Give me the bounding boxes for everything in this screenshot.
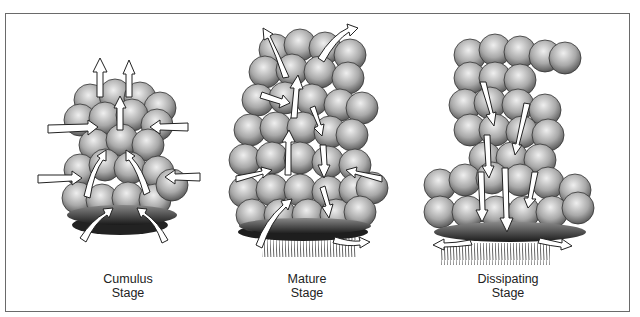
mature-cloud bbox=[229, 29, 388, 257]
dissipating-stage-label: Dissipating Stage bbox=[458, 272, 558, 300]
stage-label-line1: Cumulus bbox=[88, 272, 168, 286]
thunderstorm-stages-illustration bbox=[0, 0, 640, 317]
dissipating-cloud bbox=[424, 34, 594, 265]
stage-label-line2: Stage bbox=[458, 286, 558, 300]
stage-label-line2: Stage bbox=[88, 286, 168, 300]
cumulus-stage-label: Cumulus Stage bbox=[88, 272, 168, 300]
cumulus-cloud bbox=[62, 79, 188, 235]
stage-label-line1: Dissipating bbox=[458, 272, 558, 286]
stage-label-line2: Stage bbox=[267, 286, 347, 300]
stage-label-line1: Mature bbox=[267, 272, 347, 286]
mature-stage-label: Mature Stage bbox=[267, 272, 347, 300]
